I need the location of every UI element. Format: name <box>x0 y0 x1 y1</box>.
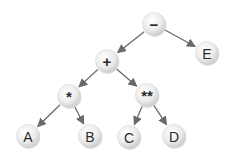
tree-node-E: E <box>196 42 220 66</box>
edge-plus-to-power <box>117 69 137 86</box>
edge-times-to-A <box>38 105 60 127</box>
edge-plus-to-times <box>79 69 98 86</box>
node-label: C <box>124 130 134 146</box>
tree-node-minus: − <box>143 13 167 37</box>
nodes-layer: −+E***ABCD <box>17 13 220 150</box>
node-label: + <box>103 53 112 70</box>
tree-node-times: * <box>58 85 82 109</box>
tree-node-B: B <box>79 125 103 149</box>
node-label: D <box>169 129 179 145</box>
tree-node-A: A <box>17 125 41 149</box>
node-label: A <box>23 129 33 145</box>
edge-power-to-C <box>134 106 142 124</box>
expression-tree-diagram: −+E***ABCD <box>0 0 229 159</box>
edge-power-to-D <box>154 105 167 124</box>
edge-minus-to-E <box>165 30 195 47</box>
tree-node-plus: + <box>96 50 120 74</box>
edges-layer <box>38 30 195 127</box>
edge-minus-to-plus <box>118 32 145 53</box>
tree-node-C: C <box>118 126 142 150</box>
tree-node-D: D <box>163 125 187 149</box>
tree-node-power: ** <box>136 84 160 108</box>
node-label: ** <box>141 87 153 104</box>
edge-times-to-B <box>75 107 84 124</box>
node-label: * <box>66 88 72 105</box>
node-label: B <box>85 129 94 145</box>
node-label: − <box>150 16 159 33</box>
node-label: E <box>202 46 211 62</box>
